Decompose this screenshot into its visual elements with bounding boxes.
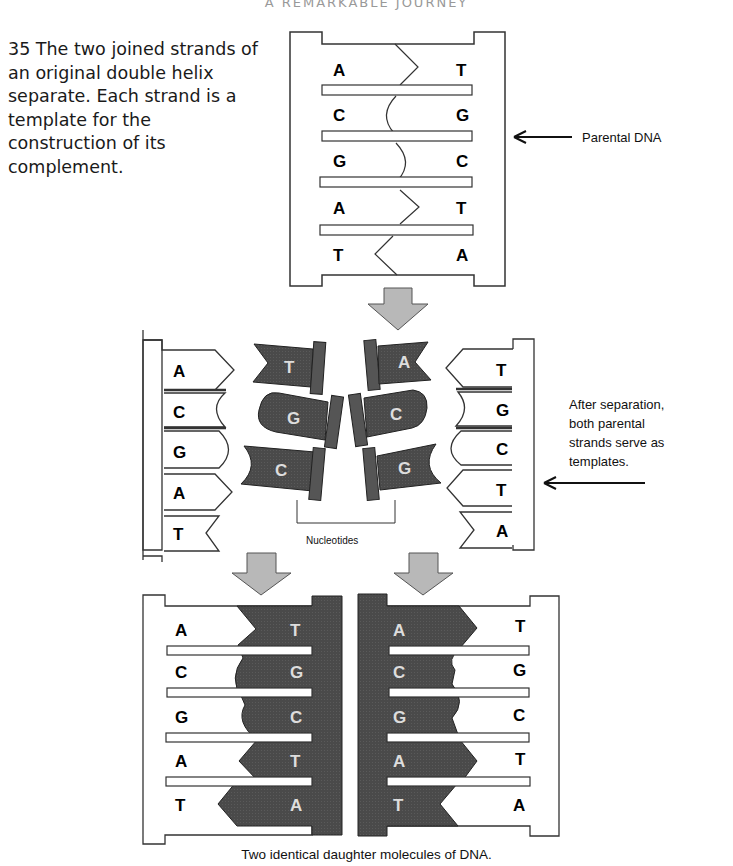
parental-dna-pointer: Parental DNA	[514, 130, 662, 145]
base-label: A	[290, 796, 302, 815]
base-label: A	[173, 362, 185, 381]
base-label: A	[456, 246, 468, 265]
base-label: C	[175, 663, 187, 682]
svg-text:both parental: both parental	[569, 416, 645, 431]
base-label: G	[513, 661, 526, 680]
base-label: C	[290, 708, 302, 727]
base-label: A	[173, 484, 185, 503]
base-label: G	[496, 401, 509, 420]
base-label: C	[393, 663, 405, 682]
base-label: G	[287, 409, 300, 428]
daughters-caption: Two identical daughter molecules of DNA.	[0, 847, 733, 862]
base-label: A	[333, 61, 345, 80]
base-label: G	[398, 459, 411, 478]
base-label: C	[513, 706, 525, 725]
nucleotides-bracket: Nucleotides	[297, 500, 395, 546]
down-arrow-icon	[368, 288, 428, 330]
base-label: T	[496, 361, 507, 380]
base-label: G	[290, 663, 303, 682]
base-label: T	[290, 752, 301, 771]
free-nucleotides-left: T G C	[241, 342, 344, 501]
base-label: A	[333, 199, 345, 218]
base-label: C	[456, 152, 468, 171]
svg-text:strands serve as: strands serve as	[569, 435, 665, 450]
base-label: A	[175, 752, 187, 771]
left-template-strand: A C G A T	[143, 330, 234, 562]
base-label: C	[275, 461, 287, 480]
base-label: C	[173, 403, 185, 422]
base-label: T	[284, 358, 295, 377]
base-label: A	[496, 522, 508, 541]
base-label: A	[513, 796, 525, 815]
nucleotides-label: Nucleotides	[306, 535, 358, 546]
base-label: T	[393, 796, 404, 815]
base-label: T	[515, 750, 526, 769]
base-label: C	[390, 405, 402, 424]
base-label: G	[393, 708, 406, 727]
svg-text:templates.: templates.	[569, 454, 629, 469]
base-label: A	[175, 621, 187, 640]
down-arrow-icon	[232, 553, 291, 595]
dna-replication-diagram: A C G A T T G C T A Parental DNA A C G A…	[0, 0, 733, 866]
base-label: T	[333, 246, 344, 265]
base-label: G	[456, 106, 469, 125]
base-label: C	[496, 440, 508, 459]
down-arrow-icon	[394, 553, 453, 595]
base-label: G	[173, 443, 186, 462]
base-label: T	[515, 617, 526, 636]
parental-dna: A C G A T T G C T A	[290, 32, 505, 286]
right-template-strand: T G C T A	[446, 339, 534, 550]
base-label: C	[333, 106, 345, 125]
parental-dna-label: Parental DNA	[582, 130, 662, 145]
separation-note: After separation, both parental strands …	[544, 397, 665, 489]
base-label: A	[393, 752, 405, 771]
base-label: A	[398, 353, 410, 372]
free-nucleotides-right: A C G	[348, 340, 441, 501]
daughter-molecule-right: A C G A T T G C T A	[358, 594, 559, 836]
svg-text:After separation,: After separation,	[569, 397, 664, 412]
daughter-molecule-left: A C G A T T G C T A	[143, 595, 342, 844]
base-label: G	[333, 152, 346, 171]
base-label: T	[175, 796, 186, 815]
base-label: T	[456, 61, 467, 80]
base-label: G	[175, 708, 188, 727]
base-label: T	[456, 199, 467, 218]
base-label: A	[393, 621, 405, 640]
base-label: T	[173, 525, 184, 544]
base-label: T	[290, 621, 301, 640]
base-label: T	[496, 481, 507, 500]
